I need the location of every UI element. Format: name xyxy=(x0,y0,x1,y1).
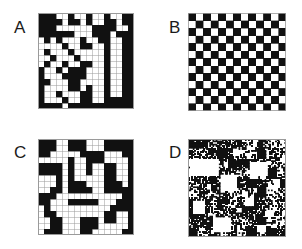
panel-c: C xyxy=(0,125,151,249)
panel-d: D xyxy=(151,125,302,249)
panel-b: B xyxy=(151,0,302,125)
panel-c-label: C xyxy=(14,144,26,161)
panel-b-label: B xyxy=(169,19,180,36)
panel-a: A xyxy=(0,0,151,125)
four-panel-binary-pattern-figure: A B C D xyxy=(0,0,302,249)
panel-c-grid xyxy=(38,139,134,235)
panel-b-grid xyxy=(188,13,286,111)
panel-a-grid xyxy=(38,13,134,109)
panel-a-label: A xyxy=(14,19,25,36)
panel-d-grid xyxy=(188,139,286,237)
panel-d-label: D xyxy=(169,144,181,161)
